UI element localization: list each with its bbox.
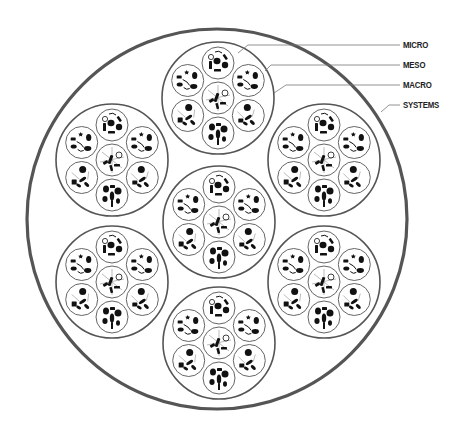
glyph-circle-icon bbox=[245, 349, 252, 356]
meso-upper-left bbox=[66, 127, 98, 159]
meso-bottom bbox=[203, 241, 235, 273]
glyph-blob-icon bbox=[359, 256, 364, 263]
glyph-rect-icon bbox=[320, 253, 327, 256]
meso-lower-left bbox=[66, 284, 98, 316]
glyph-rect-icon bbox=[344, 181, 349, 185]
glyph-blob-icon bbox=[343, 145, 349, 149]
leader-line-macro bbox=[274, 85, 400, 93]
label-meso: MESO bbox=[403, 60, 425, 70]
glyph-blob-icon bbox=[190, 84, 197, 89]
glyph-blob-icon bbox=[209, 258, 214, 264]
glyph-rect-icon bbox=[217, 368, 222, 371]
glyph-circle-icon bbox=[138, 166, 145, 173]
glyph-circle-icon bbox=[291, 288, 298, 295]
meso-lower-right bbox=[232, 100, 264, 132]
glyph-rect-icon bbox=[218, 383, 220, 390]
glyph-blob-icon bbox=[191, 208, 198, 213]
micro-circle bbox=[338, 127, 370, 159]
micro-circle bbox=[173, 310, 205, 342]
glyph-circle-icon bbox=[328, 124, 334, 130]
glyph-blob-icon bbox=[254, 196, 259, 203]
glyph-blob-icon bbox=[102, 196, 107, 202]
meso-bottom bbox=[308, 301, 340, 333]
glyph-blob-icon bbox=[116, 198, 120, 204]
glyph-rect-icon bbox=[215, 314, 222, 317]
glyph-blob-icon bbox=[191, 329, 198, 334]
glyph-blob-icon bbox=[147, 256, 152, 263]
meso-lower-left bbox=[173, 224, 205, 256]
glyph-rect-icon bbox=[210, 306, 213, 314]
glyph-blob-icon bbox=[296, 268, 303, 273]
glyph-blob-icon bbox=[322, 192, 326, 201]
meso-top bbox=[308, 231, 340, 263]
glyph-blob-icon bbox=[359, 134, 364, 141]
meso-top bbox=[202, 47, 234, 79]
glyph-rect-icon bbox=[72, 302, 77, 307]
glyph-circle-icon bbox=[221, 126, 228, 133]
glyph-rect-icon bbox=[209, 61, 212, 69]
glyph-rect-icon bbox=[178, 200, 183, 203]
glyph-blob-icon bbox=[357, 146, 364, 151]
meso-lower-right bbox=[338, 162, 370, 194]
glyph-blob-icon bbox=[314, 318, 319, 324]
meso-top bbox=[96, 231, 128, 263]
glyph-blob-icon bbox=[193, 317, 198, 324]
glyph-circle-icon bbox=[328, 246, 334, 252]
glyph-rect-icon bbox=[326, 164, 332, 167]
meso-top bbox=[308, 109, 340, 141]
glyph-blob-icon bbox=[177, 83, 183, 87]
meso-lower-left bbox=[278, 162, 310, 194]
glyph-blob-icon bbox=[86, 256, 91, 263]
meso-top bbox=[203, 171, 235, 203]
meso-top bbox=[96, 109, 128, 141]
glyph-blob-icon bbox=[178, 207, 184, 211]
glyph-rect-icon bbox=[217, 247, 222, 250]
glyph-blob-icon bbox=[298, 134, 303, 141]
glyph-circle-icon bbox=[222, 250, 229, 257]
glyph-rect-icon bbox=[179, 363, 184, 368]
micro-circle bbox=[126, 127, 158, 159]
meso-center bbox=[96, 266, 128, 298]
glyph-blob-icon bbox=[328, 320, 332, 326]
meso-lower-right bbox=[338, 284, 370, 316]
glyph-rect-icon bbox=[215, 193, 222, 196]
glyph-circle-icon bbox=[116, 124, 122, 130]
micro-circle bbox=[173, 189, 205, 221]
micro-circle bbox=[232, 65, 264, 97]
glyph-rect-icon bbox=[343, 260, 348, 263]
glyph-blob-icon bbox=[357, 268, 364, 273]
glyph-blob-icon bbox=[147, 134, 152, 141]
micro-circle bbox=[278, 127, 310, 159]
glyph-rect-icon bbox=[178, 118, 183, 123]
macro-bottom bbox=[163, 287, 275, 399]
glyph-blob-icon bbox=[131, 145, 137, 149]
meso-upper-left bbox=[278, 249, 310, 281]
micro-circle bbox=[233, 189, 265, 221]
glyph-circle-icon bbox=[350, 288, 357, 295]
glyph-rect-icon bbox=[108, 131, 115, 134]
label-micro: MICRO bbox=[403, 40, 428, 50]
glyph-blob-icon bbox=[210, 248, 216, 255]
micro-circle bbox=[278, 249, 310, 281]
meso-upper-left bbox=[278, 127, 310, 159]
macro-layer bbox=[56, 42, 380, 399]
glyph-rect-icon bbox=[326, 286, 332, 289]
glyph-blob-icon bbox=[254, 317, 259, 324]
glyph-blob-icon bbox=[71, 145, 77, 149]
glyph-rect-icon bbox=[110, 185, 115, 188]
glyph-blob-icon bbox=[192, 72, 197, 79]
macro-top bbox=[162, 42, 274, 154]
glyph-rect-icon bbox=[131, 260, 136, 263]
label-macro: MACRO bbox=[403, 80, 432, 90]
glyph-rect-icon bbox=[322, 307, 327, 310]
glyph-rect-icon bbox=[218, 262, 220, 269]
glyph-circle-icon bbox=[115, 188, 122, 195]
glyph-blob-icon bbox=[215, 303, 222, 309]
meso-upper-left bbox=[172, 65, 204, 97]
meso-bottom bbox=[203, 362, 235, 394]
meso-lower-left bbox=[173, 345, 205, 377]
meso-bottom bbox=[96, 301, 128, 333]
glyph-rect-icon bbox=[323, 200, 325, 207]
glyph-blob-icon bbox=[215, 182, 222, 188]
glyph-rect-icon bbox=[103, 123, 106, 131]
